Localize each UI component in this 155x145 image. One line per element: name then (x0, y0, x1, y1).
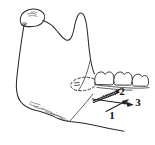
label-2: 2 (119, 85, 125, 97)
mandibular-body-inferior-tail (70, 121, 125, 131)
tooth-second-molar (114, 72, 132, 85)
figure-container: Lateral view line drawing of the mandibl… (0, 0, 155, 145)
label-3: 3 (135, 96, 141, 108)
mandibular-notch (43, 13, 84, 40)
arrow-hatching (101, 91, 117, 100)
mandibular-body-superior-border (70, 94, 93, 121)
lower-border-bone-texture (30, 102, 69, 121)
tooth-first-molar (95, 72, 114, 85)
dashed-ellipse-inner-ticks (75, 82, 80, 85)
ramus-anterior-border (16, 24, 24, 99)
condyle-surface-texture (28, 12, 38, 16)
ramus-to-teeth-connector (79, 59, 91, 90)
gonial-angle-and-lower-border (19, 99, 70, 121)
condylar-neck-spur (23, 23, 27, 24)
mandible-line-drawing: Lateral view line drawing of the mandibl… (0, 0, 155, 145)
tooth-third-molar (132, 74, 148, 86)
dashed-ellipse-region (70, 76, 98, 93)
label-1: 1 (109, 109, 115, 121)
